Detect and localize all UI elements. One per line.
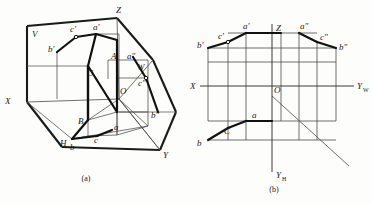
label-b-prime-b: b' [197,40,205,50]
label-axis-z-a: Z [116,5,122,15]
label-b-dprime-a: b″ [151,110,160,120]
label-a-prime-b: a' [243,21,251,31]
marker-c-prime-b [226,40,229,43]
figure-container: X Z Y V H W O A B C a' b' c' a b c a″ b″… [0,0,372,203]
figure-panel-b: X Z O Y W Y H a' b' c' a″ b″ c″ a b C (b… [186,0,372,203]
label-a-dprime-a: a″ [127,51,136,61]
label-a-top-a: a [114,122,119,132]
label-b-dprime-b: b″ [339,42,348,52]
label-a-dprime-b: a″ [300,21,309,31]
label-c-dprime-a: c″ [138,78,146,88]
label-plane-h: H [59,138,67,148]
label-point-C-a: C [87,68,94,78]
caption-panel-a: (a) [82,174,91,183]
marker-c-prime [74,35,77,38]
figure-panel-a: X Z Y V H W O A B C a' b' c' a b c a″ b″… [0,0,186,203]
label-c-prime-a: c' [70,24,77,34]
label-c-dprime-b: c″ [320,32,328,42]
label-b-top-a: b [70,142,75,152]
label-axis-yw-sub: W [363,87,369,93]
label-axis-x-b: X [189,81,196,91]
panel-a-drawing: X Z Y V H W O A B C a' b' c' a b c a″ b″… [0,0,186,203]
label-plane-w: W [137,62,146,72]
label-axis-x-a: X [4,96,11,106]
label-axis-z-b: Z [276,23,282,33]
caption-panel-b: (b) [269,185,279,194]
label-a-prime-a: a' [93,22,101,32]
label-a-top-b: a [252,110,257,120]
label-point-B-a: B [78,116,84,126]
label-plane-v: V [32,29,39,39]
label-c-top-b: C [224,126,231,136]
label-origin-b: O [274,85,281,95]
panel-b-drawing: X Z O Y W Y H a' b' c' a″ b″ c″ a b C (b… [186,0,372,203]
label-axis-y-a: Y [163,150,169,160]
label-axis-yh: Y H [276,170,287,182]
construction-lines-b [208,33,349,166]
label-b-prime-a: b' [48,44,56,54]
label-point-A-a: A [110,51,117,61]
label-c-prime-b: c' [218,31,225,41]
label-b-top-b: b [197,138,202,148]
label-axis-yh-sub: H [282,176,287,182]
label-axis-yw: Y W [357,81,369,93]
label-c-top-a: c [94,135,98,145]
label-origin-a: O [120,86,127,96]
